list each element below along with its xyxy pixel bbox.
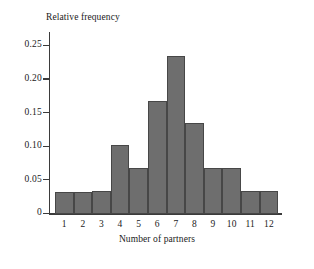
histogram-bar <box>241 191 260 215</box>
x-tick-label: 8 <box>185 219 205 229</box>
histogram-bar <box>55 192 74 214</box>
x-tick-label: 4 <box>110 219 130 229</box>
histogram-bar <box>204 168 223 214</box>
histogram-bar <box>222 168 241 214</box>
y-tick-label: 0 <box>37 208 42 218</box>
histogram-bar <box>129 168 148 214</box>
x-axis-title: Number of partners <box>0 234 314 245</box>
histogram-bar <box>92 191 111 214</box>
histogram-bar <box>185 123 204 214</box>
histogram-chart: Relative frequency 00.050.100.150.200.25… <box>0 0 314 269</box>
x-tick-label: 3 <box>92 219 112 229</box>
x-tick-label: 6 <box>147 219 167 229</box>
histogram-bar <box>167 56 186 214</box>
y-axis-title: Relative frequency <box>46 12 120 23</box>
x-tick-label: 1 <box>54 219 74 229</box>
histogram-bar <box>74 192 93 214</box>
x-tick-label: 2 <box>73 219 93 229</box>
x-tick-label: 10 <box>222 219 242 229</box>
histogram-bar <box>260 191 279 215</box>
y-tick-label: 0.05 <box>25 175 42 185</box>
y-tick-label: 0.10 <box>25 141 42 151</box>
y-tick-label: 0.20 <box>25 74 42 84</box>
histogram-bar <box>111 145 130 214</box>
x-tick-label: 7 <box>166 219 186 229</box>
y-tick-label: 0.15 <box>25 108 42 118</box>
histogram-bar <box>148 101 167 214</box>
x-tick-label: 5 <box>129 219 149 229</box>
x-tick-label: 12 <box>259 219 279 229</box>
plot-area <box>49 32 285 214</box>
x-tick-label: 11 <box>240 219 260 229</box>
y-tick-label: 0.25 <box>25 40 42 50</box>
x-tick-label: 9 <box>203 219 223 229</box>
